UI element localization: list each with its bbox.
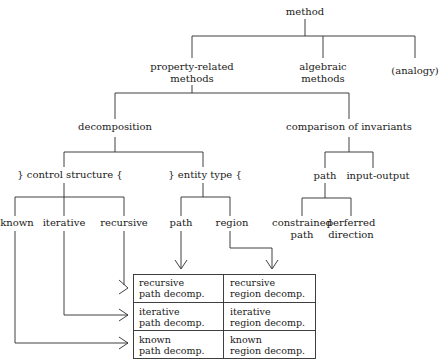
cell-line: path decomp.	[139, 345, 205, 356]
cell-line: iterative	[230, 306, 305, 317]
node-property-related-line1: property-related	[150, 61, 234, 73]
node-preferred-direction: perferred direction	[327, 217, 376, 241]
matrix-cell-known-path: known path decomp.	[139, 334, 205, 356]
node-region: region	[216, 217, 249, 229]
node-constrained-line2: path	[272, 229, 332, 241]
node-algebraic-methods: algebraic methods	[299, 61, 346, 85]
node-property-related-line2: methods	[150, 73, 234, 85]
cell-line: known	[230, 334, 305, 345]
cell-line: region decomp.	[230, 317, 305, 328]
matrix-cell-recursive-path: recursive path decomp.	[139, 277, 205, 299]
node-comparison-path: path	[314, 170, 337, 182]
node-comparison-of-invariants: comparison of invariants	[286, 121, 412, 133]
cell-line: path decomp.	[139, 317, 205, 328]
node-entity-path: path	[170, 217, 193, 229]
cell-line: known	[139, 334, 205, 345]
cell-line: iterative	[139, 306, 205, 317]
node-preferred-line1: perferred	[327, 217, 376, 229]
node-algebraic-line1: algebraic	[299, 61, 346, 73]
node-entity-type: } entity type {	[168, 169, 242, 181]
node-preferred-line2: direction	[327, 229, 376, 241]
cell-line: recursive	[230, 277, 305, 288]
node-property-related-methods: property-related methods	[150, 61, 234, 85]
node-constrained-line1: constrained	[272, 217, 332, 229]
matrix-cell-recursive-region: recursive region decomp.	[230, 277, 305, 299]
cell-line: recursive	[139, 277, 205, 288]
node-algebraic-line2: methods	[299, 73, 346, 85]
node-decomposition: decomposition	[78, 121, 152, 133]
cell-line: region decomp.	[230, 288, 305, 299]
node-iterative: iterative	[43, 217, 86, 229]
matrix-cell-iterative-region: iterative region decomp.	[230, 306, 305, 328]
cell-line: path decomp.	[139, 288, 205, 299]
cell-line: region decomp.	[230, 345, 305, 356]
matrix-cell-iterative-path: iterative path decomp.	[139, 306, 205, 328]
node-control-structure: } control structure {	[17, 169, 122, 181]
node-analogy: (analogy)	[391, 65, 438, 77]
node-recursive: recursive	[100, 217, 147, 229]
node-method: method	[286, 6, 324, 18]
matrix-cell-known-region: known region decomp.	[230, 334, 305, 356]
node-constrained-path: constrained path	[272, 217, 332, 241]
node-input-output: input-output	[346, 170, 409, 182]
node-known: known	[0, 217, 34, 229]
